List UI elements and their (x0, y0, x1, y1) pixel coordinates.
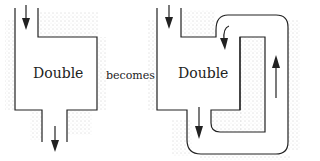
left-box-label: Double (33, 65, 83, 81)
left-inlet-arrow-icon (22, 5, 30, 30)
left-outlet-arrow-icon (51, 126, 59, 152)
right-double-pipe-with-loop (148, 8, 300, 160)
loop-up-arrow-icon (272, 55, 280, 98)
right-box-label: Double (178, 65, 228, 81)
loop-curved-arrow-icon (220, 26, 229, 50)
right-outlet-arrow-icon (195, 107, 203, 139)
becomes-label: becomes (106, 69, 155, 82)
right-inlet-arrow-icon (165, 5, 173, 29)
